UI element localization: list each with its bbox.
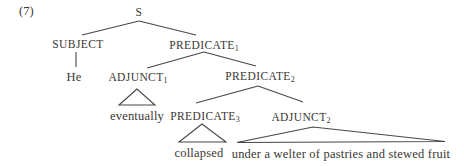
node-predicate3: PREDICATE3: [170, 109, 240, 125]
edge-predicate1-adjunct1: [147, 52, 204, 68]
adjunct2-triangle: [237, 127, 445, 143]
node-subject-label: SUBJECT: [52, 38, 103, 50]
node-predicate2-label: PREDICATE: [225, 70, 291, 82]
node-adjunct1-label: ADJUNCT: [108, 71, 163, 83]
node-he: He: [67, 70, 82, 84]
example-number: (7): [19, 4, 34, 19]
adjunct1-triangle: [119, 89, 155, 105]
node-s-label: S: [136, 6, 143, 18]
node-phrase-label: under a welter of pastries and stewed fr…: [232, 147, 451, 161]
node-collapsed: collapsed: [174, 146, 223, 160]
node-predicate1-subscript: 1: [235, 44, 239, 53]
edge-predicate2-adjunct2: [258, 86, 303, 102]
edge-s-subject: [82, 21, 139, 35]
node-adjunct1-subscript: 1: [164, 76, 168, 85]
node-he-label: He: [67, 70, 82, 84]
node-predicate1: PREDICATE1: [169, 38, 239, 54]
node-collapsed-label: collapsed: [174, 146, 223, 160]
syntax-tree-figure: (7) S SUBJECT PREDICATE1 He ADJUNCT1 PRE…: [0, 0, 464, 166]
node-adjunct2: ADJUNCT2: [271, 110, 330, 126]
edge-predicate2-predicate3: [196, 86, 258, 103]
node-predicate2: PREDICATE2: [225, 69, 295, 85]
node-predicate3-label: PREDICATE: [170, 110, 236, 122]
predicate3-triangle: [179, 124, 226, 142]
node-predicate1-label: PREDICATE: [169, 39, 235, 51]
node-subject: SUBJECT: [52, 37, 103, 51]
edge-s-predicate1: [139, 21, 196, 35]
node-adjunct1: ADJUNCT1: [108, 70, 167, 86]
edge-predicate1-predicate2: [204, 52, 256, 66]
node-adjunct2-label: ADJUNCT: [271, 111, 326, 123]
node-s: S: [136, 5, 143, 19]
node-phrase: under a welter of pastries and stewed fr…: [232, 147, 451, 161]
node-predicate3-subscript: 3: [236, 115, 240, 124]
node-adjunct2-subscript: 2: [327, 116, 331, 125]
node-eventually: eventually: [110, 109, 164, 123]
node-predicate2-subscript: 2: [291, 75, 295, 84]
node-eventually-label: eventually: [110, 109, 164, 123]
